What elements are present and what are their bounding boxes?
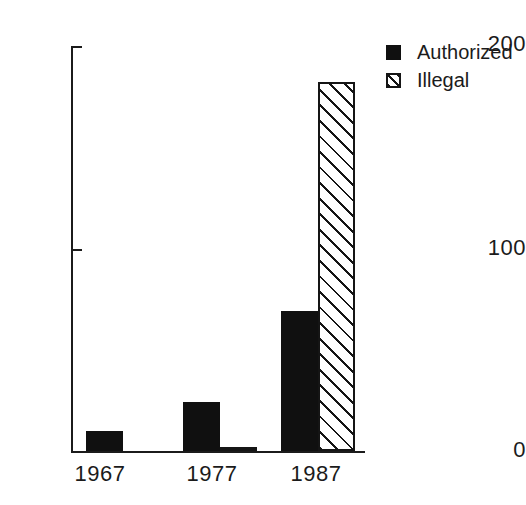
y-axis-tick-200: [73, 46, 82, 48]
y-axis-label-100: 100: [462, 237, 526, 259]
bar-1987-illegal: [318, 82, 355, 451]
bar-1967-authorized: [86, 431, 123, 451]
x-axis-line: [71, 451, 365, 453]
legend-label-illegal: Illegal: [417, 70, 469, 90]
x-axis-label-1977: 1977: [157, 462, 267, 486]
legend-item-authorized: Authorized: [386, 40, 513, 64]
bar-1977-illegal: [220, 447, 257, 451]
y-axis-label-0: 0: [462, 439, 526, 461]
y-axis-tick-0: [73, 451, 82, 453]
solid-black-square-icon: [386, 45, 401, 60]
x-axis-label-1967: 1967: [45, 462, 155, 486]
bar-1987-authorized: [281, 311, 318, 451]
bar-chart: 200 100 0 1967 1977 1987 Authorized Ille…: [0, 0, 526, 505]
y-axis-tick-100: [73, 249, 82, 251]
legend-item-illegal: Illegal: [386, 68, 513, 92]
legend: Authorized Illegal: [386, 40, 513, 96]
x-axis-label-1987: 1987: [261, 462, 371, 486]
legend-label-authorized: Authorized: [417, 42, 513, 62]
bar-1977-authorized: [183, 402, 220, 451]
hatched-square-icon: [386, 73, 401, 88]
